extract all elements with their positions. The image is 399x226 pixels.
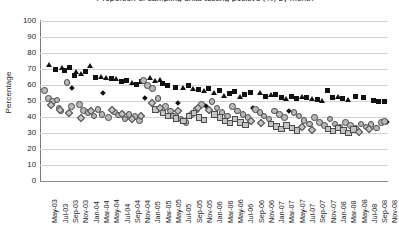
data-point-square bbox=[315, 97, 320, 102]
data-point-square-open bbox=[165, 113, 171, 119]
gridline-10 bbox=[40, 165, 388, 166]
data-point-circle bbox=[41, 87, 48, 94]
data-point-square bbox=[340, 96, 345, 101]
x-tick-label: Jul-07 bbox=[308, 181, 317, 223]
data-point-square bbox=[173, 85, 178, 90]
data-point-square bbox=[83, 69, 88, 74]
data-point-circle bbox=[373, 125, 380, 132]
data-point-circle bbox=[209, 98, 216, 105]
x-tick-label: Jan-06 bbox=[215, 181, 224, 223]
gridline-100 bbox=[40, 21, 388, 22]
y-tick-label: 80 bbox=[4, 49, 36, 57]
data-point-circle bbox=[149, 85, 156, 92]
gridline-70 bbox=[40, 69, 388, 70]
data-point-square bbox=[232, 89, 237, 94]
gridline-60 bbox=[40, 85, 388, 86]
x-tick-label: Jan-08 bbox=[339, 181, 348, 223]
data-point-diamond-open bbox=[65, 108, 73, 116]
x-tick-label: May-03 bbox=[50, 181, 59, 223]
data-point-circle bbox=[64, 79, 71, 86]
data-point-square bbox=[124, 78, 129, 83]
data-point-square-open bbox=[201, 117, 207, 123]
x-tick-label: May-06 bbox=[236, 181, 245, 223]
x-tick-label: May-05 bbox=[174, 181, 183, 223]
x-tick-label: Nov-04 bbox=[143, 181, 152, 223]
gridline-90 bbox=[40, 37, 388, 38]
x-tick-label: Nov-07 bbox=[329, 181, 338, 223]
x-tick-label: Mar-05 bbox=[164, 181, 173, 223]
y-tick-label: 10 bbox=[4, 161, 36, 169]
data-point-square bbox=[53, 67, 58, 72]
data-point-circle bbox=[381, 118, 388, 125]
y-tick-label: 100 bbox=[4, 17, 36, 25]
data-point-diamond bbox=[70, 86, 75, 91]
data-point-square bbox=[206, 86, 211, 91]
data-point-square bbox=[67, 65, 72, 70]
x-tick-label: Jan-07 bbox=[277, 181, 286, 223]
y-tick-label: 50 bbox=[4, 97, 36, 105]
data-point-circle bbox=[155, 95, 162, 102]
x-tick-label: Jul-05 bbox=[184, 181, 193, 223]
data-point-square bbox=[217, 88, 222, 93]
x-tick-label: May-04 bbox=[112, 181, 121, 223]
data-point-square bbox=[196, 87, 201, 92]
x-tick-label: Nov-05 bbox=[205, 181, 214, 223]
data-point-square-open bbox=[173, 115, 179, 121]
data-point-square bbox=[93, 75, 98, 80]
x-tick-label: Nov-08 bbox=[390, 181, 399, 223]
y-tick-label: 60 bbox=[4, 81, 36, 89]
y-tick-label: 20 bbox=[4, 145, 36, 153]
data-point-triangle bbox=[46, 62, 52, 67]
x-tick-label: Sep-03 bbox=[71, 181, 80, 223]
data-point-square bbox=[382, 99, 387, 104]
gridline-20 bbox=[40, 149, 388, 150]
data-point-square bbox=[294, 96, 299, 101]
x-tick-label: Mar-08 bbox=[349, 181, 358, 223]
x-tick-label: Jul-06 bbox=[246, 181, 255, 223]
data-point-square bbox=[325, 88, 330, 93]
y-tick-label: 30 bbox=[4, 129, 36, 137]
y-tick-label: 90 bbox=[4, 33, 36, 41]
x-tick-label: Jan-04 bbox=[92, 181, 101, 223]
data-point-square bbox=[72, 73, 77, 78]
x-tick-label: Mar-06 bbox=[226, 181, 235, 223]
data-point-triangle bbox=[319, 98, 325, 103]
data-point-square bbox=[361, 95, 366, 100]
data-point-square bbox=[263, 94, 268, 99]
x-tick-label: Nov-06 bbox=[267, 181, 276, 223]
chart-title: Proportion of sampling units testing pos… bbox=[55, 0, 355, 2]
x-tick-label: Jul-08 bbox=[370, 181, 379, 223]
x-tick-label: Sep-08 bbox=[380, 181, 389, 223]
x-tick-label: Mar-07 bbox=[287, 181, 296, 223]
x-axis-tick-labels: May-03Jul-03Sep-03Nov-03Jan-04Mar-04May-… bbox=[0, 181, 393, 226]
x-tick-label: Jan-05 bbox=[153, 181, 162, 223]
data-point-square bbox=[165, 83, 170, 88]
x-tick-label: Sep-07 bbox=[318, 181, 327, 223]
data-point-square bbox=[109, 76, 114, 81]
y-tick-label: 40 bbox=[4, 113, 36, 121]
data-point-square bbox=[353, 94, 358, 99]
data-point-diamond-open bbox=[257, 119, 265, 127]
data-point-square bbox=[330, 95, 335, 100]
data-point-square bbox=[304, 95, 309, 100]
data-point-circle bbox=[281, 114, 288, 121]
x-tick-label: May-08 bbox=[360, 181, 369, 223]
x-tick-label: Sep-05 bbox=[195, 181, 204, 223]
data-point-diamond bbox=[101, 90, 106, 95]
x-tick-label: Sep-04 bbox=[133, 181, 142, 223]
x-tick-label: Sep-06 bbox=[257, 181, 266, 223]
x-tick-label: May-07 bbox=[298, 181, 307, 223]
data-point-diamond bbox=[142, 95, 147, 100]
data-point-circle bbox=[54, 97, 61, 104]
x-tick-label: Nov-03 bbox=[81, 181, 90, 223]
data-point-square bbox=[248, 90, 253, 95]
x-tick-label: Mar-04 bbox=[102, 181, 111, 223]
y-tick-label: 70 bbox=[4, 65, 36, 73]
x-tick-label: Jul-04 bbox=[123, 181, 132, 223]
plot-area bbox=[40, 21, 388, 181]
x-tick-label: Jul-03 bbox=[61, 181, 70, 223]
data-point-square bbox=[186, 83, 191, 88]
data-point-square bbox=[279, 95, 284, 100]
data-point-triangle bbox=[345, 97, 351, 102]
